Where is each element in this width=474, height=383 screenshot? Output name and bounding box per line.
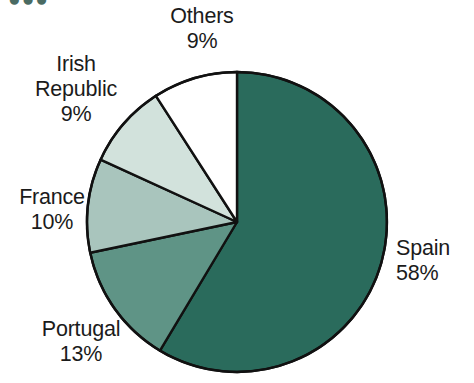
slice-label-spain-percent: 58% [396,261,474,286]
slice-label-irish-republic: Irish Republic 9% [14,52,138,127]
slice-label-portugal-percent: 13% [18,342,144,367]
slice-label-portugal-name: Portugal [42,317,120,341]
slice-label-others-name: Others [170,4,233,28]
slice-label-france-name: France [19,185,85,209]
pie-chart-figure: ●●● Others 9% Irish Republic 9% France 1… [0,0,474,383]
slice-label-others-percent: 9% [146,29,258,54]
slice-label-france: France 10% [0,185,104,235]
slice-label-others: Others 9% [146,4,258,54]
slice-label-irish-republic-line2: Republic [14,77,138,102]
slice-label-spain-name: Spain [396,236,450,260]
slice-label-irish-republic-line1: Irish [56,52,96,76]
slice-label-france-percent: 10% [0,210,104,235]
slice-label-irish-republic-percent: 9% [14,102,138,127]
slice-label-spain: Spain 58% [396,236,474,286]
slice-label-portugal: Portugal 13% [18,317,144,367]
